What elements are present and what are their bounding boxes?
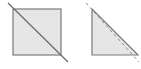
diagram-canvas bbox=[0, 0, 141, 69]
right-triangle-shape bbox=[92, 9, 138, 55]
